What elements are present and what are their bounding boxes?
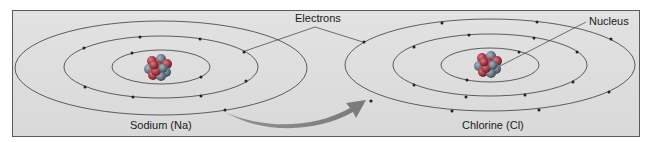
chlorine-label: Chlorine (Cl) bbox=[462, 119, 524, 131]
chlorine-nucleus bbox=[474, 51, 502, 78]
electrons-label: Electrons bbox=[295, 12, 341, 24]
transfer-arrow bbox=[225, 100, 366, 128]
sodium-label: Sodium (Na) bbox=[130, 119, 192, 131]
nucleus-leader-line bbox=[500, 22, 586, 66]
nucleus-label: Nucleus bbox=[589, 15, 629, 27]
sodium-nucleus bbox=[144, 54, 172, 81]
electrons-leader-lines bbox=[245, 27, 363, 51]
